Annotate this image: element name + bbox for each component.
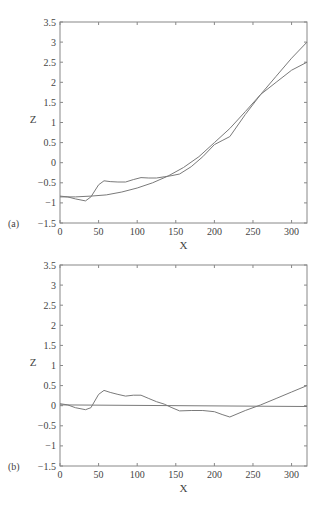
y-tick-label: −1.5 [38,461,56,472]
y-tick-label: 0.5 [44,380,57,391]
chart-panel-b: −1.5−1−0.500.511.522.533.505010015020025… [0,243,325,493]
chart-svg: −1.5−1−0.500.511.522.533.505010015020025… [0,243,325,493]
y-tick-label: 1 [51,117,56,128]
x-tick-label: 0 [58,469,63,480]
x-tick-label: 50 [94,469,104,480]
x-tick-label: 100 [130,226,145,237]
panel-label: (a) [8,218,19,230]
y-tick-label: 2 [51,77,56,88]
y-tick-label: −1 [45,440,56,451]
y-tick-label: 0.5 [44,137,57,148]
y-tick-label: 2 [51,320,56,331]
plot-frame [60,265,307,466]
y-tick-label: −1.5 [38,218,56,229]
y-tick-label: 3 [51,37,56,48]
series-line-zero-line [60,405,307,407]
y-tick-label: 3 [51,280,56,291]
y-tick-label: 3.5 [44,17,57,28]
chart-svg: −1.5−1−0.500.511.522.533.505010015020025… [0,0,325,250]
x-tick-label: 250 [245,226,260,237]
x-tick-label: 150 [168,226,183,237]
x-tick-label: 300 [284,469,299,480]
y-tick-label: 2.5 [44,300,57,311]
y-tick-label: 1.5 [44,340,57,351]
x-tick-label: 100 [130,469,145,480]
y-tick-label: 0 [51,157,56,168]
x-tick-label: 150 [168,469,183,480]
y-tick-label: 3.5 [44,260,57,271]
series-line-fitted-curve [60,42,307,197]
x-tick-label: 250 [245,469,260,480]
y-tick-label: 1.5 [44,97,57,108]
y-axis-label: Z [30,113,37,125]
x-axis-label: X [180,482,188,493]
x-tick-label: 0 [58,226,63,237]
series-line-residual [60,386,307,417]
y-axis-label: Z [30,356,37,368]
chart-panel-a: −1.5−1−0.500.511.522.533.505010015020025… [0,0,325,250]
x-tick-label: 50 [94,226,104,237]
x-tick-label: 200 [207,469,222,480]
x-tick-label: 200 [207,226,222,237]
y-tick-label: −1 [45,197,56,208]
y-tick-label: −0.5 [38,177,56,188]
plot-frame [60,22,307,223]
y-tick-label: 0 [51,400,56,411]
y-tick-label: 1 [51,360,56,371]
y-tick-label: −0.5 [38,420,56,431]
y-tick-label: 2.5 [44,57,57,68]
x-tick-label: 300 [284,226,299,237]
panel-label: (b) [8,461,20,473]
